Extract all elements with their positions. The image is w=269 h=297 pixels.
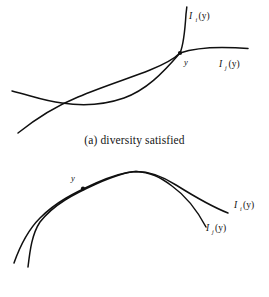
label-curve-i-arg-b: (y) (243, 200, 254, 211)
figure-container: I i (y) I j (y) y (a) diversity satisfie… (0, 0, 269, 297)
label-point-y-panel-a: y (183, 57, 188, 67)
intersection-point-marker-a (178, 51, 182, 55)
label-curve-j-base-a: I (218, 59, 223, 69)
label-point-y-panel-b: y (70, 173, 75, 183)
label-curve-i-arg-a: (y) (199, 11, 210, 22)
curve-i-j-panel-a (12, 48, 248, 105)
panel-diversity-satisfied: I i (y) I j (y) y (a) diversity satisfie… (0, 0, 269, 160)
point-y-marker-b (81, 186, 85, 190)
label-curve-i-panel-a: I i (y) (188, 11, 210, 23)
label-curve-j-arg-a: (y) (229, 59, 240, 70)
label-curve-j-sub-b: j (211, 228, 214, 235)
label-curve-i-panel-b: I i (y) (233, 200, 254, 212)
label-curve-j-base-b: I (205, 223, 210, 233)
curve-i-j-panel-b (28, 172, 206, 268)
curve-i-i-panel-a (18, 7, 187, 133)
label-curve-j-panel-a: I j (y) (218, 59, 240, 71)
panel-diversity-fails: y I i (y) I j (y) (b) diversity fails (0, 160, 269, 297)
label-curve-i-sub-b: i (240, 205, 242, 212)
label-curve-i-sub-a: i (196, 16, 198, 23)
label-curve-j-panel-b: I j (y) (205, 223, 226, 235)
label-curve-j-sub-a: j (224, 64, 227, 71)
caption-panel-a: (a) diversity satisfied (0, 134, 269, 146)
label-curve-i-base-b: I (233, 200, 238, 210)
panel-b-canvas: y I i (y) I j (y) (0, 160, 269, 297)
label-curve-i-base-a: I (188, 11, 193, 21)
curve-i-i-panel-b (14, 172, 228, 264)
label-curve-j-arg-b: (y) (215, 223, 226, 234)
